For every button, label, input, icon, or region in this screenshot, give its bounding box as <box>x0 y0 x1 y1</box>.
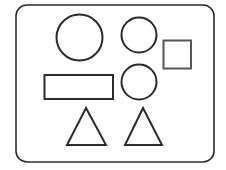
small-circle-middle <box>122 65 157 100</box>
triangle-left <box>67 108 106 145</box>
large-circle <box>57 15 103 61</box>
outer-frame <box>16 5 214 162</box>
square <box>164 41 192 69</box>
triangle-right <box>125 108 162 145</box>
rectangle <box>45 75 114 99</box>
small-circle-top <box>122 18 157 53</box>
shapes-diagram <box>0 0 226 170</box>
